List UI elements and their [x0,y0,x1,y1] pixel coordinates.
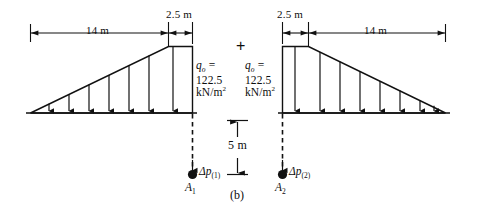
right-load-magnitude-label: qo = 122.5 kN/m2 [245,59,275,99]
right-q-unit: kN/m [245,86,272,98]
right-dim-2p5m-label: 2.5 m [277,9,303,21]
delta-p1-subscript: (1) [212,171,221,180]
delta-p2-symbol: Δp [289,165,302,177]
delta-p1-label: Δp(1) [199,165,220,180]
left-q-unit: kN/m [196,86,223,98]
point-a1-name: A [185,181,192,193]
point-a1-marker [188,170,197,179]
left-dim-14m-label: 14 m [86,25,109,37]
point-a2-label: A2 [275,181,286,196]
delta-p2-label: Δp(2) [289,165,310,180]
right-q-subscript: o [251,65,255,74]
left-q-value: 122.5 [196,74,226,86]
plus-operator: + [236,38,245,55]
left-load-outline [31,47,193,114]
point-a1-subscript: 1 [192,187,196,196]
point-a2-name: A [275,181,282,193]
point-a2-subscript: 2 [282,187,286,196]
left-dimension-witness-lines [31,22,193,46]
left-q-equals: = [209,59,216,71]
right-q-value: 122.5 [245,74,275,86]
delta-p1-symbol: Δp [199,165,212,177]
point-a2-marker [278,170,287,179]
pressure-distribution-figure: 14 m 2.5 m 2.5 m 14 m + qo = 122.5 kN/m2… [0,0,477,220]
right-q-unit-exponent: 2 [272,86,276,94]
right-q-equals: = [258,59,265,71]
left-load-magnitude-label: qo = 122.5 kN/m2 [196,59,226,99]
left-q-subscript: o [202,65,206,74]
depth-dimension-label: 5 m [228,139,247,152]
figure-caption: (b) [230,189,244,202]
delta-p2-subscript: (2) [302,171,311,180]
left-load-arrows [49,47,173,111]
right-load-arrows [295,47,434,111]
figure-svg [0,0,477,220]
right-dim-14m-label: 14 m [364,25,387,37]
left-dim-2p5m-label: 2.5 m [166,9,192,21]
left-q-unit-exponent: 2 [223,86,227,94]
point-a1-label: A1 [185,181,196,196]
right-load-outline [283,47,446,114]
